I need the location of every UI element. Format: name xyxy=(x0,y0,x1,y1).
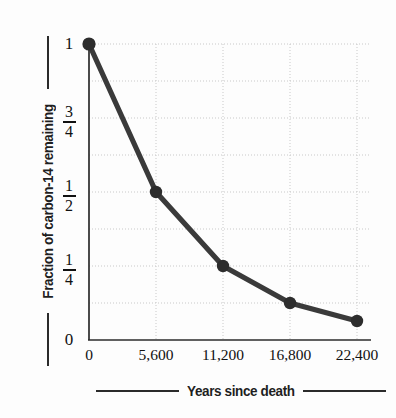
axis-spines xyxy=(88,40,371,340)
y-axis-title-rule-left xyxy=(47,313,49,366)
x-axis-tick-labels: 0 5,600 11,200 16,800 22,400 xyxy=(0,347,396,369)
x-axis-title-rule-right xyxy=(303,390,386,392)
fraction-three-quarters: 3 4 xyxy=(63,104,76,140)
x-axis-title-text: Years since death xyxy=(187,383,295,399)
x-tick-0: 0 xyxy=(85,347,93,363)
x-tick-5600: 5,600 xyxy=(139,347,174,363)
y-axis-title-text: Fraction of carbon-14 remaining xyxy=(40,104,56,299)
x-axis-title-rule-left xyxy=(96,390,179,392)
carbon-14-decay-chart: 1 3 4 1 2 1 4 0 xyxy=(0,0,396,418)
fraction-one-half: 1 2 xyxy=(63,178,76,214)
y-axis-title: Fraction of carbon-14 remaining xyxy=(37,36,59,366)
horizontal-gridlines xyxy=(89,44,371,303)
y-axis-title-rule-right xyxy=(47,36,49,89)
data-point xyxy=(351,315,363,327)
x-tick-22400: 22,400 xyxy=(336,347,379,363)
fraction-one-quarter: 1 4 xyxy=(63,252,76,288)
data-point xyxy=(82,37,95,50)
data-point xyxy=(150,186,162,198)
x-tick-11200: 11,200 xyxy=(202,347,244,363)
data-point xyxy=(217,260,229,272)
x-tick-16800: 16,800 xyxy=(269,347,312,363)
data-point xyxy=(284,297,296,309)
x-axis-title: Years since death xyxy=(96,381,386,401)
